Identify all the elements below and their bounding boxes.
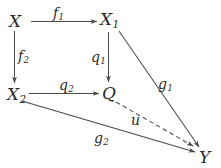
edge-label-g1: g1 bbox=[158, 77, 173, 93]
node-Q: Q bbox=[102, 85, 116, 103]
edge-u bbox=[116, 102, 193, 146]
edge-label-q2: q2 bbox=[59, 78, 74, 94]
edge-label-f1: f1 bbox=[53, 6, 64, 22]
node-X: X bbox=[9, 13, 21, 31]
edge-label-f2: f2 bbox=[18, 49, 29, 65]
node-X2: X2 bbox=[7, 86, 26, 104]
edge-label-u: u bbox=[131, 113, 140, 129]
node-Y: Y bbox=[199, 149, 211, 167]
node-X1: X1 bbox=[100, 11, 119, 29]
commutative-diagram: X X1 X2 Q Y f1 f2 q1 q2 g1 g2 u bbox=[0, 0, 221, 168]
edge-label-g2: g2 bbox=[94, 131, 109, 147]
edge-label-q1: q1 bbox=[91, 50, 106, 66]
